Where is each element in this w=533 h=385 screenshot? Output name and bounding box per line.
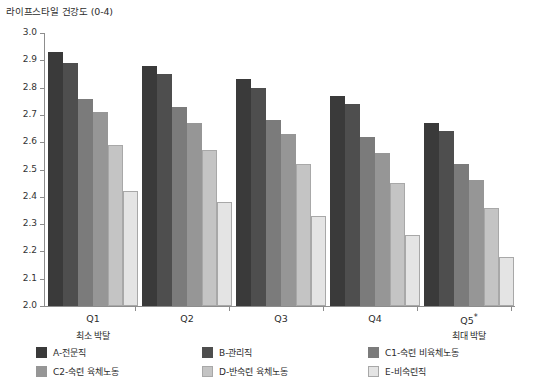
legend-swatch	[368, 347, 379, 358]
bar[interactable]	[469, 180, 484, 306]
bar[interactable]	[172, 107, 187, 306]
y-axis-tick: 2.6	[0, 142, 45, 143]
legend-label: E-비숙련직	[385, 365, 426, 378]
chart-title: 라이프스타일 건강도 (0-4)	[6, 4, 113, 18]
bar[interactable]	[63, 63, 78, 306]
y-tick-label: 2.7	[23, 109, 37, 119]
y-tick-label: 2.3	[23, 218, 37, 228]
bar[interactable]	[157, 74, 172, 306]
bar[interactable]	[202, 150, 217, 306]
bar[interactable]	[266, 120, 281, 306]
y-axis-tick: 2.7	[0, 115, 45, 116]
bar[interactable]	[375, 153, 390, 306]
legend-item[interactable]: E-비숙련직	[368, 365, 426, 378]
legend-swatch	[36, 347, 47, 358]
y-tick-label: 2.9	[23, 54, 37, 64]
bar[interactable]	[484, 208, 499, 306]
bar[interactable]	[236, 79, 251, 306]
y-axis-tick: 2.2	[0, 251, 45, 252]
x-tick-mark	[417, 306, 418, 311]
x-axis-label-text: Q5	[460, 315, 474, 326]
x-tick-mark	[229, 306, 230, 311]
legend-item[interactable]: A-전문직	[36, 346, 86, 359]
y-tick-label: 2.4	[23, 191, 37, 201]
legend-label: A-전문직	[53, 346, 86, 359]
legend-item[interactable]: C1-숙련 비육체노동	[368, 346, 459, 359]
bar-group	[142, 33, 232, 306]
legend-label: B-관리직	[219, 346, 252, 359]
y-axis-tick: 2.4	[0, 197, 45, 198]
bar[interactable]	[123, 191, 138, 306]
bar[interactable]	[108, 145, 123, 306]
y-tick-label: 2.8	[23, 82, 37, 92]
bar[interactable]	[48, 52, 63, 306]
bar-group	[424, 33, 514, 306]
legend-item[interactable]: B-관리직	[202, 346, 252, 359]
legend-label: C2-숙련 육체노동	[53, 365, 119, 378]
bar[interactable]	[424, 123, 439, 306]
bar[interactable]	[499, 257, 514, 306]
plot-area	[45, 33, 515, 306]
bar[interactable]	[296, 164, 311, 306]
y-axis-tick: 2.0	[0, 306, 45, 307]
x-tick-mark	[511, 306, 512, 311]
bar-group	[330, 33, 420, 306]
asterisk-marker: *	[474, 313, 478, 322]
legend-item[interactable]: C2-숙련 육체노동	[36, 365, 119, 378]
bar[interactable]	[78, 99, 93, 306]
legend-swatch	[202, 366, 213, 377]
bar[interactable]	[390, 183, 405, 306]
bar[interactable]	[251, 88, 266, 306]
legend-swatch	[36, 366, 47, 377]
legend-item[interactable]: D-반숙련 육체노동	[202, 365, 288, 378]
x-axis-label-5: Q5*	[412, 313, 526, 326]
bar[interactable]	[360, 137, 375, 306]
bar[interactable]	[405, 235, 420, 306]
bar[interactable]	[281, 134, 296, 306]
bar[interactable]	[93, 112, 108, 306]
y-tick-label: 3.0	[23, 27, 37, 37]
bar[interactable]	[345, 104, 360, 306]
bar[interactable]	[439, 131, 454, 306]
bar[interactable]	[187, 123, 202, 306]
x-tick-mark	[135, 306, 136, 311]
legend-swatch	[368, 366, 379, 377]
legend-label: C1-숙련 비육체노동	[385, 346, 459, 359]
y-axis-tick: 2.9	[0, 60, 45, 61]
y-tick-label: 2.0	[23, 300, 37, 310]
bar-group	[236, 33, 326, 306]
bar[interactable]	[311, 216, 326, 306]
bar[interactable]	[142, 66, 157, 306]
y-axis-tick: 2.8	[0, 88, 45, 89]
y-tick-label: 2.2	[23, 245, 37, 255]
legend-swatch	[202, 347, 213, 358]
bar[interactable]	[454, 164, 469, 306]
x-axis-note-max: 최대 박탈	[402, 329, 533, 342]
y-tick-label: 2.1	[23, 273, 37, 283]
bar-group	[48, 33, 138, 306]
x-axis-note-min: 최소 박탈	[26, 329, 160, 342]
x-tick-mark	[323, 306, 324, 311]
legend-label: D-반숙련 육체노동	[219, 365, 288, 378]
y-axis-tick: 2.1	[0, 279, 45, 280]
x-axis-line	[44, 306, 515, 307]
y-axis-tick: 2.5	[0, 170, 45, 171]
bar[interactable]	[330, 96, 345, 306]
y-tick-label: 2.6	[23, 136, 37, 146]
y-axis-tick: 2.3	[0, 224, 45, 225]
bar[interactable]	[217, 202, 232, 306]
y-tick-label: 2.5	[23, 164, 37, 174]
y-axis-tick: 3.0	[0, 33, 45, 34]
y-tick-mark	[40, 306, 45, 307]
